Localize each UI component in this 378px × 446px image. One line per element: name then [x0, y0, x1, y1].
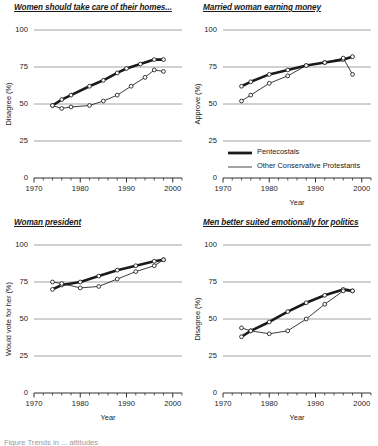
- data-point: [152, 264, 156, 268]
- data-point: [115, 268, 119, 272]
- y-tick-label: 25: [0, 136, 28, 145]
- data-point: [115, 93, 119, 97]
- data-point: [134, 264, 138, 268]
- series-line-pentecostals: [53, 60, 164, 106]
- y-tick-label: 100: [189, 240, 217, 249]
- plot-area: [0, 0, 189, 215]
- data-point: [152, 68, 156, 72]
- data-point: [267, 73, 271, 77]
- data-point: [351, 73, 355, 77]
- x-tick-label: 1970: [209, 399, 237, 408]
- figure-caption: Figure Trends in ... attitudes: [4, 438, 98, 446]
- data-point: [115, 277, 119, 281]
- y-axis-label: Would vote for her (%): [4, 282, 13, 356]
- data-point: [125, 67, 129, 71]
- data-point: [341, 56, 345, 60]
- data-point: [78, 280, 82, 284]
- data-point: [341, 289, 345, 293]
- data-point: [88, 104, 92, 108]
- y-tick-label: 75: [189, 62, 217, 71]
- data-point: [51, 288, 55, 292]
- plot-area: [189, 215, 378, 430]
- data-point: [152, 259, 156, 263]
- data-point: [351, 55, 355, 59]
- chart-panel-top-left: Women should take care of their homes...…: [0, 0, 189, 215]
- y-tick-label: 100: [0, 25, 28, 34]
- x-tick-label: 2000: [159, 399, 187, 408]
- data-point: [138, 62, 142, 66]
- x-tick-label: 1970: [20, 399, 48, 408]
- x-tick-label: 1990: [113, 184, 141, 193]
- x-tick-label: 2000: [348, 184, 376, 193]
- x-axis-label: Year: [223, 413, 371, 422]
- y-tick-label: 25: [189, 351, 217, 360]
- data-point: [323, 302, 327, 306]
- figure-four-panel-trends: Women should take care of their homes...…: [0, 0, 378, 446]
- data-point: [101, 99, 105, 103]
- data-point: [115, 71, 119, 75]
- data-point: [69, 93, 73, 97]
- data-point: [240, 99, 244, 103]
- x-tick-label: 1980: [66, 399, 94, 408]
- x-tick-label: 1990: [302, 184, 330, 193]
- y-axis-label: Approve (%): [193, 83, 202, 124]
- data-point: [162, 58, 166, 62]
- chart-panel-bottom-left: Woman president0255075100197019801990200…: [0, 215, 189, 430]
- data-point: [351, 289, 355, 293]
- data-point: [143, 75, 147, 79]
- data-point: [249, 80, 253, 84]
- data-point: [60, 107, 64, 111]
- data-point: [88, 84, 92, 88]
- data-point: [286, 74, 290, 78]
- y-axis-label: Disagree (%): [193, 297, 202, 340]
- x-tick-label: 1990: [302, 399, 330, 408]
- plot-area: [0, 215, 189, 430]
- data-point: [249, 329, 253, 333]
- data-point: [60, 98, 64, 102]
- data-point: [304, 64, 308, 68]
- x-tick-label: 1980: [66, 184, 94, 193]
- legend-label: Other Conservative Protestants: [257, 161, 360, 170]
- data-point: [129, 84, 133, 88]
- series-line-pentecostals: [242, 57, 353, 87]
- x-axis-label: Year: [223, 198, 371, 207]
- data-point: [267, 81, 271, 85]
- x-tick-label: 1980: [255, 399, 283, 408]
- x-tick-label: 2000: [348, 399, 376, 408]
- x-tick-label: 1990: [113, 399, 141, 408]
- x-tick-label: 1970: [209, 184, 237, 193]
- plot-area: [189, 0, 378, 215]
- chart-panel-top-right: Married woman earning money0255075100197…: [189, 0, 378, 215]
- data-point: [267, 332, 271, 336]
- data-point: [249, 93, 253, 97]
- y-tick-label: 75: [189, 277, 217, 286]
- legend-swatch-pentecostals: [227, 148, 253, 158]
- data-point: [267, 320, 271, 324]
- series-line-other-conservative-protestants: [53, 70, 164, 108]
- data-point: [304, 317, 308, 321]
- y-axis-label: Disagree (%): [4, 82, 13, 125]
- data-point: [97, 285, 101, 289]
- x-tick-label: 1980: [255, 184, 283, 193]
- data-point: [286, 68, 290, 72]
- data-point: [69, 105, 73, 109]
- y-tick-label: 0: [0, 173, 28, 182]
- data-point: [152, 58, 156, 62]
- y-tick-label: 0: [189, 388, 217, 397]
- x-axis-label: Year: [34, 413, 182, 422]
- y-tick-label: 0: [0, 388, 28, 397]
- data-point: [240, 84, 244, 88]
- data-point: [304, 301, 308, 305]
- legend-label: Pentecostals: [257, 147, 299, 156]
- data-point: [101, 78, 105, 82]
- y-tick-label: 100: [0, 240, 28, 249]
- data-point: [51, 104, 55, 108]
- data-point: [240, 335, 244, 339]
- data-point: [78, 286, 82, 290]
- data-point: [323, 61, 327, 65]
- data-point: [60, 282, 64, 286]
- data-point: [162, 70, 166, 74]
- data-point: [240, 326, 244, 330]
- data-point: [286, 310, 290, 314]
- y-tick-label: 0: [189, 173, 217, 182]
